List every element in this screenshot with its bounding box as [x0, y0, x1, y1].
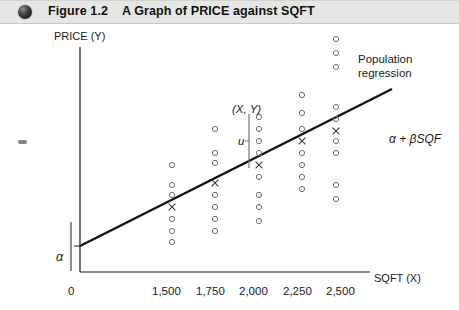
- regression-equation-annotation: α + βSQF: [389, 132, 441, 146]
- scatter-point: [299, 92, 304, 97]
- scatter-point: [256, 218, 261, 223]
- mean-marker-group: [169, 128, 340, 211]
- scatter-point: [212, 126, 217, 131]
- scatter-point: [299, 186, 304, 191]
- scatter-point: [333, 64, 338, 69]
- intercept-annotation: α: [56, 250, 63, 264]
- x-tick-label-2250: 2,250: [283, 285, 312, 297]
- observation-point-annotation: (X, Y): [232, 103, 261, 115]
- x-tick-label-2000: 2,000: [239, 285, 268, 297]
- scatter-point: [333, 36, 338, 41]
- scatter-point: [299, 150, 304, 155]
- scatter-point: [299, 126, 304, 131]
- scatter-point: [169, 216, 174, 221]
- residual-annotation: u: [238, 135, 244, 147]
- scatter-point: [256, 192, 261, 197]
- scatter-point-group: [169, 36, 338, 244]
- scatter-point: [256, 126, 261, 131]
- scatter-point: [212, 204, 217, 209]
- scatter-point: [256, 138, 261, 143]
- x-tick-label-1500: 1,500: [152, 285, 181, 297]
- x-tick-label-1750: 1,750: [196, 285, 225, 297]
- scatter-point: [212, 150, 217, 155]
- figure-caption: A Graph of PRICE against SQFT: [122, 4, 315, 18]
- x-tick-label-2500: 2,500: [326, 285, 355, 297]
- scatter-point: [256, 204, 261, 209]
- scatter-point: [333, 138, 338, 143]
- scatter-plot: PRICE (Y) SQFT (X) 0 1,500 1,750 2,000 2…: [0, 22, 459, 310]
- scatter-point: [212, 192, 217, 197]
- figure-header-bar: Figure 1.2 A Graph of PRICE against SQFT: [0, 0, 459, 24]
- scatter-point: [333, 150, 338, 155]
- scatter-point: [333, 196, 338, 201]
- scatter-point: [256, 174, 261, 179]
- x-tick-label-0: 0: [68, 285, 74, 297]
- population-regression-annotation: Population regression: [358, 52, 454, 80]
- scatter-point: [169, 162, 174, 167]
- scatter-point: [256, 114, 261, 119]
- scatter-point: [212, 160, 217, 165]
- scatter-point: [169, 239, 174, 244]
- scatter-point: [299, 162, 304, 167]
- scatter-point: [212, 216, 217, 221]
- scatter-point: [333, 182, 338, 187]
- filled-circle-icon: [18, 5, 32, 19]
- scatter-point: [333, 104, 338, 109]
- scatter-point: [169, 192, 174, 197]
- scatter-point: [299, 174, 304, 179]
- page-scan-artifact: [18, 140, 27, 144]
- scatter-point: [212, 228, 217, 233]
- scatter-point: [333, 50, 338, 55]
- scatter-point: [169, 228, 174, 233]
- scatter-point: [169, 182, 174, 187]
- figure-number: Figure 1.2: [48, 4, 108, 18]
- scatter-point: [299, 110, 304, 115]
- x-axis-label: SQFT (X): [374, 272, 421, 284]
- y-axis-label: PRICE (Y): [54, 30, 105, 42]
